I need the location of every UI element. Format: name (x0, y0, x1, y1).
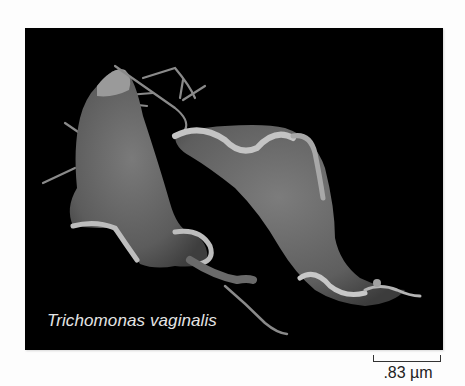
scale-bar (373, 355, 441, 362)
figure: Trichomonas vaginalis .83 µm (0, 0, 465, 386)
species-caption: Trichomonas vaginalis (47, 311, 217, 331)
scale-bar-label: .83 µm (372, 364, 444, 382)
trichomonas-cells-illustration (25, 28, 443, 350)
sem-micrograph: Trichomonas vaginalis (25, 28, 443, 350)
right-cell (175, 125, 420, 306)
